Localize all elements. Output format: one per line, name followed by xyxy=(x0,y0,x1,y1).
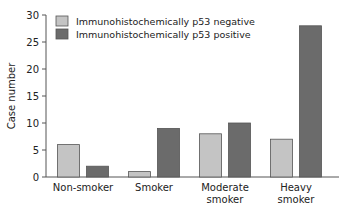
x-tick-label: Non-smoker xyxy=(53,182,114,193)
y-axis-label: Case number xyxy=(6,62,17,130)
y-tick-label: 5 xyxy=(33,145,39,156)
bar xyxy=(158,128,180,177)
y-tick-label: 0 xyxy=(33,172,39,183)
y-tick-label: 30 xyxy=(26,10,39,21)
chart-container: 051015202530Case numberNon-smokerSmokerM… xyxy=(0,0,339,216)
bar xyxy=(87,166,109,177)
bar xyxy=(229,123,251,177)
x-tick-label: smoker xyxy=(278,194,316,205)
y-tick-label: 20 xyxy=(26,64,39,75)
bar xyxy=(300,26,322,177)
x-tick-label: Smoker xyxy=(135,182,174,193)
y-tick-label: 10 xyxy=(26,118,39,129)
bar xyxy=(271,139,293,177)
x-tick-label: Moderate xyxy=(201,182,249,193)
legend-label: Immunohistochemically p53 positive xyxy=(76,29,251,40)
legend-swatch xyxy=(56,16,68,26)
bar-chart: 051015202530Case numberNon-smokerSmokerM… xyxy=(0,0,339,216)
y-tick-label: 15 xyxy=(26,91,39,102)
x-tick-label: Heavy xyxy=(280,182,312,193)
x-tick-label: smoker xyxy=(207,194,245,205)
legend-label: Immunohistochemically p53 negative xyxy=(76,16,255,27)
legend-swatch xyxy=(56,29,68,39)
bar xyxy=(129,172,151,177)
bar xyxy=(58,145,80,177)
y-tick-label: 25 xyxy=(26,37,39,48)
bar xyxy=(200,134,222,177)
